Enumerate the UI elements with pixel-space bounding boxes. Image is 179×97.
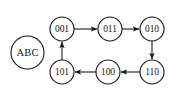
state-node-101[interactable]: 101 [50,60,74,84]
state-node-001[interactable]: 001 [50,17,74,41]
legend-node-abc: ABC [11,36,44,69]
state-node-label: 001 [55,24,69,34]
state-node-011[interactable]: 011 [98,17,122,41]
state-node-label: 011 [103,24,117,34]
state-diagram-container: ABC 001 011 010 110 100 [0,0,179,97]
state-node-110[interactable]: 110 [140,60,164,84]
state-node-010[interactable]: 010 [140,17,164,41]
state-node-label: 110 [145,67,159,77]
node-group: 001 011 010 110 100 101 [50,17,164,84]
state-diagram-canvas: ABC 001 011 010 110 100 [0,0,179,97]
state-node-label: 101 [55,67,69,77]
state-node-label: 010 [145,24,159,34]
legend-label: ABC [16,47,38,58]
state-node-label: 100 [101,67,115,77]
state-node-100[interactable]: 100 [96,60,120,84]
